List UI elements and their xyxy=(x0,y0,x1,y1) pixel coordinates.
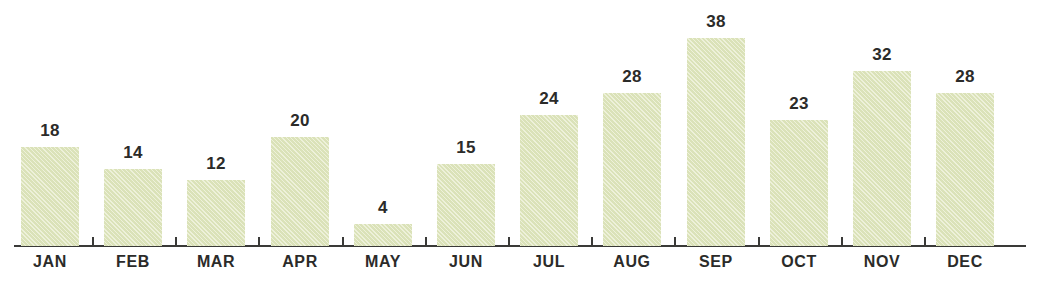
x-axis-tick-6 xyxy=(508,237,510,246)
value-label-may: 4 xyxy=(354,198,412,218)
value-label-mar: 12 xyxy=(187,154,245,174)
x-axis-tick-2 xyxy=(175,237,177,246)
bar-chart: 18JAN14FEB12MAR20APR4MAY15JUN24JUL28AUG3… xyxy=(0,0,1043,288)
x-axis-tick-7 xyxy=(591,237,593,246)
category-label-feb: FEB xyxy=(104,253,162,271)
value-label-jul: 24 xyxy=(520,89,578,109)
category-label-nov: NOV xyxy=(853,253,911,271)
category-label-jan: JAN xyxy=(21,253,79,271)
bar-jun xyxy=(437,164,495,246)
category-label-jul: JUL xyxy=(520,253,578,271)
x-axis-tick-4 xyxy=(342,237,344,246)
value-label-sep: 38 xyxy=(687,12,745,32)
category-label-jun: JUN xyxy=(437,253,495,271)
bar-feb xyxy=(104,169,162,246)
value-label-aug: 28 xyxy=(603,67,661,87)
bar-jul xyxy=(520,115,578,246)
x-axis-tick-9 xyxy=(758,237,760,246)
bar-sep xyxy=(687,38,745,246)
category-label-sep: SEP xyxy=(687,253,745,271)
x-axis-tick-8 xyxy=(674,237,676,246)
bar-oct xyxy=(770,120,828,246)
x-axis-tick-11 xyxy=(924,237,926,246)
category-label-may: MAY xyxy=(354,253,412,271)
x-axis-tick-3 xyxy=(258,237,260,246)
category-label-apr: APR xyxy=(271,253,329,271)
category-label-mar: MAR xyxy=(187,253,245,271)
x-axis-tick-10 xyxy=(841,237,843,246)
category-label-dec: DEC xyxy=(936,253,994,271)
value-label-jun: 15 xyxy=(437,138,495,158)
category-label-aug: AUG xyxy=(603,253,661,271)
value-label-jan: 18 xyxy=(21,121,79,141)
plot-area: 18JAN14FEB12MAR20APR4MAY15JUN24JUL28AUG3… xyxy=(0,0,1043,288)
bar-jan xyxy=(21,147,79,246)
category-label-oct: OCT xyxy=(770,253,828,271)
bar-apr xyxy=(271,137,329,246)
x-axis-tick-5 xyxy=(425,237,427,246)
value-label-feb: 14 xyxy=(104,143,162,163)
bar-dec xyxy=(936,93,994,246)
bar-mar xyxy=(187,180,245,246)
bar-may xyxy=(354,224,412,246)
value-label-oct: 23 xyxy=(770,94,828,114)
value-label-apr: 20 xyxy=(271,111,329,131)
bar-nov xyxy=(853,71,911,246)
value-label-nov: 32 xyxy=(853,45,911,65)
value-label-dec: 28 xyxy=(936,67,994,87)
bar-aug xyxy=(603,93,661,246)
x-axis-tick-1 xyxy=(92,237,94,246)
